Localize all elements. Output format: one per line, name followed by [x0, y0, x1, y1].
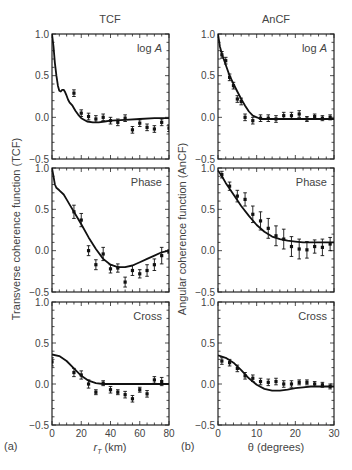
- right-column-title: AnCF: [262, 13, 290, 25]
- data-point: [145, 391, 149, 398]
- data-point: [123, 277, 127, 287]
- x-tick-label: 10: [251, 428, 263, 439]
- y-tick-label: 0.0: [201, 379, 215, 390]
- data-point: [153, 126, 157, 133]
- data-point: [305, 380, 309, 385]
- panel-label: Phase: [131, 176, 162, 188]
- y-tick-label: 0.0: [201, 112, 215, 123]
- data-point: [116, 390, 120, 395]
- data-point: [321, 116, 325, 121]
- panel-label: Phase: [296, 176, 327, 188]
- data-point: [131, 395, 135, 402]
- model-curve: [52, 355, 169, 385]
- data-point: [239, 98, 243, 105]
- data-point: [236, 96, 240, 103]
- data-point: [236, 190, 240, 202]
- data-point: [160, 119, 164, 126]
- data-point: [167, 250, 171, 253]
- model-curve: [218, 355, 334, 390]
- data-point: [290, 112, 294, 119]
- data-point: [131, 266, 135, 276]
- y-tick-label: 0.5: [201, 70, 215, 81]
- data-point: [274, 378, 278, 385]
- y-tick-label: 0.0: [201, 245, 215, 256]
- y-tick-label: 0.5: [35, 338, 49, 349]
- data-point: [160, 247, 164, 264]
- left-panel-tag: (a): [4, 440, 17, 452]
- data-point: [138, 120, 142, 127]
- y-tick-label: 1.0: [201, 297, 215, 308]
- data-point: [243, 193, 247, 206]
- right-y-axis-label: Angular coherence function (AnCF): [176, 143, 188, 315]
- left-column-title: TCF: [99, 13, 121, 25]
- y-tick-label: −0.5: [195, 420, 215, 431]
- data-point: [266, 115, 270, 122]
- data-point: [305, 242, 309, 259]
- y-tick-label: 0.5: [35, 70, 49, 81]
- x-tick-label: 80: [163, 428, 175, 439]
- x-tick-label: 30: [328, 428, 340, 439]
- data-point: [131, 127, 135, 134]
- panel-tcf-phase: 1.00.50.0−0.5Phase: [29, 163, 171, 298]
- y-tick-label: 1.0: [35, 297, 49, 308]
- data-point: [243, 114, 247, 121]
- y-tick-label: 0.5: [35, 204, 49, 215]
- y-tick-label: 1.0: [35, 163, 49, 174]
- panel-ancf-log-a: 1.00.50.0−0.5log A: [195, 29, 334, 165]
- y-tick-label: 0.0: [35, 112, 49, 123]
- data-point: [101, 114, 105, 121]
- right-panel-tag: (b): [181, 440, 194, 452]
- x-tick-label: 40: [105, 428, 117, 439]
- y-tick-label: −0.5: [29, 420, 49, 431]
- y-tick-label: 1.0: [201, 163, 215, 174]
- left-x-axis-label: rT (km): [94, 441, 127, 455]
- y-tick-label: 0.0: [35, 245, 49, 256]
- data-point: [305, 117, 309, 122]
- panel-label: log A: [137, 42, 162, 54]
- data-point: [328, 237, 332, 250]
- data-point: [72, 90, 76, 97]
- data-point: [282, 112, 286, 119]
- data-point: [94, 116, 98, 123]
- x-tick-label: 0: [49, 428, 55, 439]
- coherence-figure: TCF AnCF Transverse coherence function (…: [0, 0, 352, 470]
- x-tick-label: 0: [215, 428, 221, 439]
- y-tick-label: 0.0: [35, 379, 49, 390]
- data-point: [259, 378, 263, 385]
- data-point: [123, 391, 127, 398]
- y-tick-label: 0.5: [201, 204, 215, 215]
- x-tick-label: 20: [76, 428, 88, 439]
- panel-label: log A: [302, 42, 327, 54]
- y-tick-label: 1.0: [201, 29, 215, 40]
- data-point: [50, 358, 54, 366]
- data-point: [153, 259, 157, 271]
- y-tick-label: 0.5: [201, 338, 215, 349]
- data-point: [259, 115, 263, 122]
- panel-label: Cross: [298, 310, 327, 322]
- data-point: [138, 270, 142, 278]
- data-point: [94, 390, 98, 395]
- data-point: [138, 387, 142, 392]
- data-point: [116, 264, 120, 272]
- data-point: [282, 229, 286, 249]
- x-tick-label: 60: [134, 428, 146, 439]
- panel-tcf-log-a: 1.00.50.0−0.5log A: [29, 29, 171, 165]
- y-tick-label: 1.0: [35, 29, 49, 40]
- data-point: [145, 265, 149, 277]
- data-point: [297, 111, 301, 118]
- data-point: [72, 205, 76, 218]
- panel-tcf-cross: 1.00.50.0−0.5020406080Cross: [29, 297, 175, 440]
- data-point: [251, 117, 255, 124]
- data-point: [274, 116, 278, 123]
- data-point: [220, 358, 224, 365]
- data-point: [274, 226, 278, 246]
- data-point: [282, 381, 286, 388]
- x-tick-label: 20: [290, 428, 302, 439]
- data-point: [297, 380, 301, 385]
- right-x-axis-label: θ (degrees): [248, 441, 304, 453]
- panel-label: Cross: [133, 310, 162, 322]
- data-point: [328, 384, 332, 389]
- data-point: [153, 377, 157, 384]
- data-point: [94, 260, 98, 270]
- data-point: [290, 237, 294, 257]
